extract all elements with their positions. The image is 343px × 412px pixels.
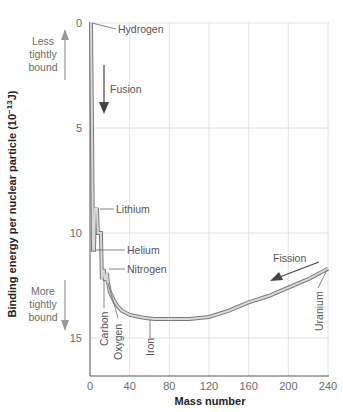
x-tick-labels: 04080120160200240: [87, 380, 337, 392]
label-hydrogen: Hydrogen: [118, 23, 164, 35]
binding-energy-chart: 04080120160200240 051015 Hydrogen Lithiu…: [0, 0, 343, 412]
y-tick-labels: 051015: [70, 17, 82, 344]
y-tick-label: 15: [70, 332, 82, 344]
label-more-tightly: tightly: [29, 298, 57, 310]
y-axis-title: Binding energy per nuclear particle (10−…: [5, 90, 18, 317]
y-tick-label: 5: [76, 122, 82, 134]
x-tick-label: 160: [239, 380, 257, 392]
fusion-arrow-icon: [99, 65, 109, 114]
label-fusion: Fusion: [110, 83, 142, 95]
label-oxygen: Oxygen: [112, 324, 124, 360]
x-tick-label: 240: [319, 380, 337, 392]
y-tick-label: 0: [76, 17, 82, 29]
label-less-tightly: tightly: [29, 48, 57, 60]
label-fission: Fission: [273, 252, 306, 264]
x-axis-title: Mass number: [175, 395, 247, 407]
x-tick-label: 0: [87, 380, 93, 392]
x-tick-label: 40: [124, 380, 136, 392]
up-arrow-icon: [61, 29, 69, 80]
label-more: More: [31, 285, 55, 297]
gridlines: [90, 22, 329, 376]
label-helium: Helium: [127, 244, 160, 256]
label-carbon: Carbon: [98, 311, 110, 346]
y-tick-label: 10: [70, 227, 82, 239]
label-uranium: Uranium: [313, 291, 325, 331]
x-tick-label: 200: [279, 380, 297, 392]
label-lithium: Lithium: [116, 203, 150, 215]
label-less: Less: [32, 35, 54, 47]
x-tick-label: 120: [200, 380, 218, 392]
label-more-bound: bound: [28, 311, 57, 323]
x-tick-label: 80: [163, 380, 175, 392]
label-iron: Iron: [144, 338, 156, 356]
label-nitrogen: Nitrogen: [127, 263, 167, 275]
label-less-bound: bound: [28, 61, 57, 73]
down-arrow-icon: [61, 280, 69, 331]
